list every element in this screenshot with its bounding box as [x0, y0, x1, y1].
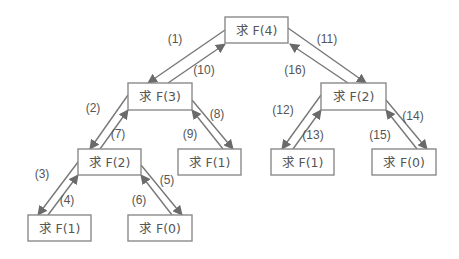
step-label: (1) [168, 32, 183, 46]
step-label: (7) [111, 127, 126, 141]
step-label: (4) [60, 193, 75, 207]
step-label: (2) [86, 101, 101, 115]
node-label: 求 F(0) [139, 221, 181, 236]
step-label: (12) [272, 103, 293, 117]
fibonacci-recursion-diagram: 求 F(4)求 F(3)求 F(2)求 F(1)求 F(1)求 F(0)求 F(… [0, 0, 459, 259]
node-label: 求 F(3) [139, 89, 181, 104]
node-f0b: 求 F(0) [372, 149, 436, 175]
node-label: 求 F(1) [39, 221, 81, 236]
node-label: 求 F(2) [333, 89, 375, 104]
node-f0a: 求 F(0) [128, 215, 192, 241]
node-f2b: 求 F(2) [321, 83, 386, 110]
node-f2a: 求 F(2) [78, 149, 141, 175]
node-label: 求 F(4) [236, 23, 278, 38]
step-label: (8) [210, 107, 225, 121]
edges-layer [38, 28, 427, 215]
node-f1c: 求 F(1) [271, 149, 334, 175]
step-label: (13) [302, 128, 323, 142]
arrow-step-14 [386, 100, 427, 149]
step-label: (15) [369, 128, 390, 142]
node-f1a: 求 F(1) [178, 149, 241, 175]
step-label: (14) [402, 109, 423, 123]
step-label: (3) [35, 167, 50, 181]
step-label: (5) [160, 173, 175, 187]
node-label: 求 F(1) [282, 155, 324, 170]
node-f1b: 求 F(1) [28, 215, 91, 241]
node-f3: 求 F(3) [128, 83, 192, 110]
node-label: 求 F(1) [189, 155, 231, 170]
step-label: (16) [284, 63, 305, 77]
step-label: (9) [183, 127, 198, 141]
node-label: 求 F(2) [89, 155, 131, 170]
node-label: 求 F(0) [383, 155, 425, 170]
step-label: (10) [193, 63, 214, 77]
edge-labels-layer: (1)(10)(11)(16)(2)(7)(8)(9)(3)(4)(5)(6)(… [35, 32, 424, 207]
node-f4: 求 F(4) [225, 17, 288, 43]
step-label: (11) [317, 32, 337, 46]
step-label: (6) [132, 193, 147, 207]
